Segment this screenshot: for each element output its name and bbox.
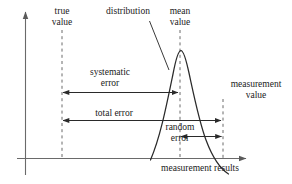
label-x-axis-title-text: measurement results (148, 163, 252, 174)
label-total-error: total error (83, 108, 145, 119)
error-distribution-figure: true value distribution mean value syste… (0, 0, 292, 184)
label-mean-value-line1: mean (155, 6, 205, 17)
label-measurement-value: measurement value (222, 79, 290, 100)
distribution-curve (151, 51, 229, 175)
distribution-leader-line (150, 21, 170, 70)
label-systematic-error-line2: error (79, 78, 141, 89)
label-measurement-value-line2: value (222, 90, 290, 101)
label-random-error: random error (153, 122, 207, 143)
label-measurement-value-line1: measurement (222, 79, 290, 90)
label-random-error-line1: random (153, 122, 207, 133)
label-true-value-line2: value (33, 17, 91, 28)
label-systematic-error-line1: systematic (79, 67, 141, 78)
label-random-error-line2: error (153, 133, 207, 144)
label-mean-value-line2: value (155, 17, 205, 28)
label-true-value: true value (33, 6, 91, 27)
label-systematic-error: systematic error (79, 67, 141, 88)
label-true-value-line1: true (33, 6, 91, 17)
label-mean-value: mean value (155, 6, 205, 27)
label-distribution-text: distribution (97, 6, 159, 17)
label-x-axis-title: measurement results (148, 163, 252, 174)
label-distribution: distribution (97, 6, 159, 17)
label-total-error-text: total error (83, 108, 145, 119)
